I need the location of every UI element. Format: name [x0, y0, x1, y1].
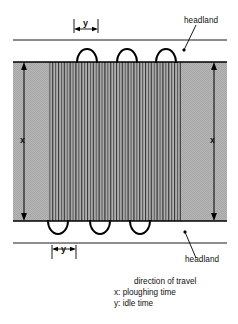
direction-of-travel-arrow-icon: [104, 277, 134, 287]
arrowhead-right-y-top: [92, 27, 98, 31]
legend: direction of travel x: ploughing time y:…: [104, 276, 234, 309]
headland-label-top: headland: [184, 17, 218, 25]
dimension-label-x-right: x: [210, 136, 215, 145]
turn-loops-bottom: [48, 221, 150, 234]
turn-loop-bottom-2: [90, 221, 110, 234]
ploughing-pattern-diagram: headland headland x x y y direction of t…: [0, 0, 238, 324]
turn-loop-top-1: [77, 49, 97, 62]
headland-leader-top: [183, 25, 196, 51]
arrowhead-left-y-top: [74, 27, 80, 31]
turn-loop-bottom-1: [48, 221, 68, 234]
dimension-label-x-left: x: [20, 136, 25, 145]
turn-loops-top: [77, 49, 176, 62]
furrow-hatching-overlay: [48, 62, 181, 221]
turn-loop-top-2: [117, 49, 137, 62]
legend-row-direction: direction of travel: [104, 276, 234, 287]
turn-loop-bottom-3: [130, 221, 150, 234]
arrowhead-right-y-bottom: [70, 247, 76, 251]
field-area: [13, 62, 227, 221]
headland-leader-bottom: [184, 231, 196, 258]
dimension-label-y-bottom: y: [61, 245, 66, 254]
headland-label-bottom: headland: [185, 256, 219, 264]
arrowhead-left-y-bottom: [52, 247, 58, 251]
dimension-label-y-top: y: [83, 19, 88, 28]
turn-loop-top-3: [156, 49, 176, 62]
